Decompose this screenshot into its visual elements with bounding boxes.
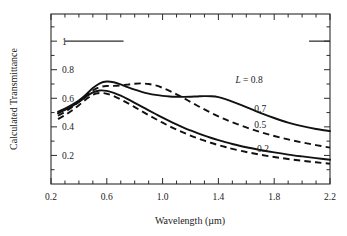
curve-0-5 [58, 90, 330, 159]
y-axis-major-ticks [51, 41, 330, 155]
x-tick-label: 1.4 [212, 192, 224, 202]
annotation-0-5: 0.5 [254, 120, 266, 130]
data-curves [58, 82, 330, 164]
y-tick-label: 0.6 [62, 94, 74, 104]
curve-0-8 [58, 82, 330, 132]
x-tick-label: 1.8 [268, 192, 280, 202]
x-tick-label: 2.2 [324, 192, 336, 202]
y-axis-title: Calculated Transmittance [8, 47, 19, 149]
y-axis-minor-ticks [51, 27, 330, 170]
y-axis-tick-labels: 0.20.40.60.81 [62, 37, 74, 161]
y-tick-label: 0.4 [62, 122, 74, 132]
x-tick-label: 1.0 [157, 192, 169, 202]
figure-container: 0.20.61.01.41.82.2 0.20.40.60.81 L = 0.8… [0, 0, 347, 236]
annotation-0-2: 0.2 [257, 144, 269, 154]
annotation-0-7: 0.7 [254, 104, 266, 114]
x-tick-label: 0.6 [101, 192, 113, 202]
x-axis-title: Wavelength (µm) [155, 215, 225, 227]
x-tick-label: 0.2 [45, 192, 57, 202]
y-tick-label: 0.2 [62, 151, 74, 161]
y-tick-label: 0.8 [62, 65, 74, 75]
annotation---0-8: L = 0.8 [234, 75, 263, 85]
transmittance-chart: 0.20.61.01.41.82.2 0.20.40.60.81 L = 0.8… [0, 0, 347, 236]
x-axis-tick-labels: 0.20.61.01.41.82.2 [45, 192, 336, 202]
curve-0-2 [58, 93, 330, 164]
